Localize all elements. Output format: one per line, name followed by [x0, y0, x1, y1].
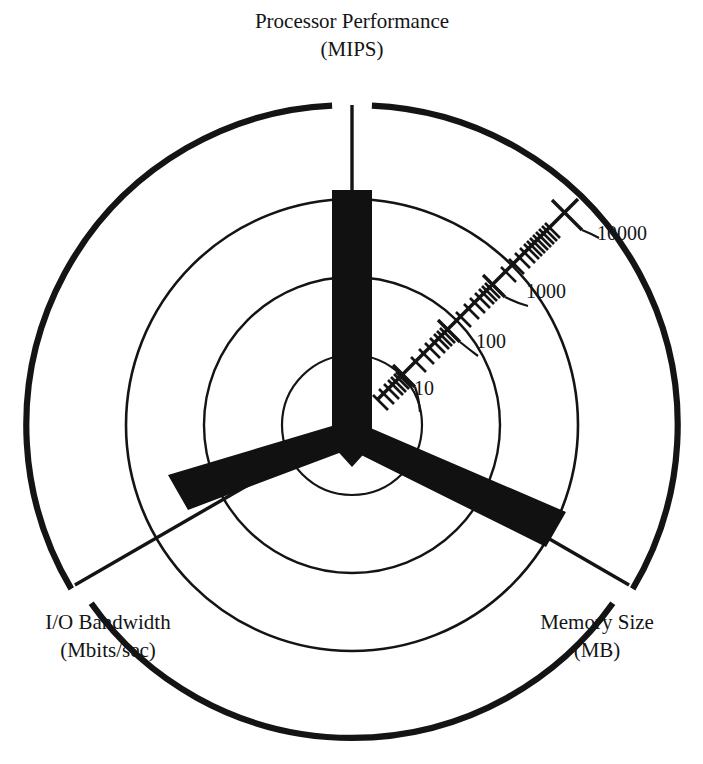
- axis-title-processor-line2: (MIPS): [320, 37, 383, 61]
- kiviat-chart: 10 100 1000 10000 Processor Performance …: [0, 0, 703, 764]
- scale-label-1000: 1000: [526, 280, 566, 302]
- axis-title-processor-line1: Processor Performance: [255, 9, 449, 33]
- kiviat-diagram-canvas: 10 100 1000 10000 Processor Performance …: [0, 0, 703, 764]
- scale-label-10000: 10000: [597, 222, 647, 244]
- scale-label-10: 10: [414, 377, 434, 399]
- axis-title-memory-line1: Memory Size: [540, 610, 654, 634]
- scale-ticks-decade-2: [411, 320, 460, 372]
- leader-line-1000: [505, 297, 528, 306]
- scale-leader-lines: [415, 230, 599, 412]
- tick-major-10000: [552, 200, 582, 230]
- scale-ticks-decade-3: [456, 275, 505, 327]
- scale-ticks-decade-4: [501, 200, 582, 282]
- scale-label-100: 100: [476, 330, 506, 352]
- axis-title-io-line2: (Mbits/sec): [60, 638, 156, 662]
- axis-title-io-line1: I/O Bandwidth: [45, 610, 171, 634]
- scale-ticks-decade-1: [373, 365, 415, 410]
- outer-ring-arc-left: [26, 106, 332, 589]
- axis-title-memory-line2: (MB): [574, 638, 621, 662]
- log-scale-axis: 10 100 1000 10000: [373, 199, 647, 412]
